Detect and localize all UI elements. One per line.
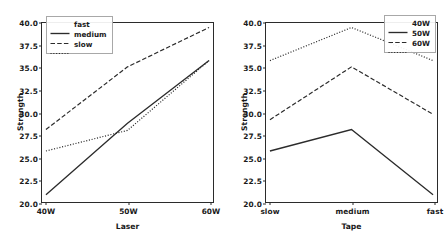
- legend-item-50w[interactable]: 50W: [388, 29, 430, 39]
- series-line-50w: [270, 67, 433, 120]
- y-tick-label: 22.5: [243, 177, 262, 186]
- y-tick-label: 32.5: [19, 86, 38, 95]
- y-tick-mark: [263, 23, 266, 24]
- y-tick-mark: [39, 181, 42, 182]
- x-tick-mark: [270, 202, 271, 205]
- x-tick-mark: [128, 202, 129, 205]
- y-tick-label: 40.0: [243, 19, 262, 28]
- y-tick-label: 32.5: [243, 86, 262, 95]
- x-tick-label: 60W: [202, 207, 221, 216]
- y-tick-label: 27.5: [243, 132, 262, 141]
- y-tick-label: 37.5: [243, 41, 262, 50]
- y-tick-mark: [263, 45, 266, 46]
- y-tick-label: 40.0: [19, 19, 38, 28]
- y-tick-mark: [39, 113, 42, 114]
- legend-label: 40W: [412, 20, 430, 27]
- y-tick-mark: [39, 23, 42, 24]
- y-tick-mark: [263, 90, 266, 91]
- legend-item-40w[interactable]: 40W: [388, 19, 430, 29]
- y-tick-mark: [39, 45, 42, 46]
- x-tick-mark: [46, 202, 47, 205]
- y-tick-mark: [39, 136, 42, 137]
- legend-item-medium[interactable]: medium: [50, 30, 107, 40]
- legend-right: 40W50W60W: [384, 15, 436, 53]
- x-axis-label-left: Laser: [41, 222, 214, 231]
- y-tick-mark: [263, 113, 266, 114]
- y-tick-label: 35.0: [243, 64, 262, 73]
- series-line-fast: [46, 61, 209, 195]
- y-tick-mark: [263, 181, 266, 182]
- y-tick-mark: [39, 158, 42, 159]
- y-tick-label: 25.0: [243, 154, 262, 163]
- legend-item-60w[interactable]: 60W: [388, 39, 430, 49]
- legend-item-slow[interactable]: slow: [50, 40, 107, 50]
- legend-swatch-dashed-icon: [388, 31, 408, 38]
- legend-swatch-dashed-icon: [50, 32, 70, 39]
- legend-label: 60W: [412, 40, 430, 47]
- y-tick-mark: [263, 136, 266, 137]
- y-tick-label: 37.5: [19, 41, 38, 50]
- legend-left: fastmediumslow: [46, 16, 113, 54]
- x-tick-mark: [211, 202, 212, 205]
- chart-panel-tape: Strength 20.022.525.027.530.032.535.037.…: [224, 0, 448, 242]
- y-tick-mark: [263, 204, 266, 205]
- y-tick-label: 35.0: [19, 64, 38, 73]
- y-tick-label: 30.0: [243, 109, 262, 118]
- y-tick-mark: [39, 68, 42, 69]
- y-tick-label: 25.0: [19, 154, 38, 163]
- y-tick-label: 20.0: [19, 200, 38, 209]
- chart-panel-laser: Strength 20.022.525.027.530.032.535.037.…: [0, 0, 224, 242]
- y-tick-label: 30.0: [19, 109, 38, 118]
- legend-item-fast[interactable]: fast: [50, 20, 107, 30]
- y-tick-mark: [39, 204, 42, 205]
- legend-swatch-solid-icon: [50, 22, 70, 29]
- x-tick-label: slow: [260, 207, 279, 216]
- y-tick-label: 22.5: [19, 177, 38, 186]
- legend-swatch-dotted-icon: [50, 42, 70, 49]
- y-tick-mark: [39, 90, 42, 91]
- x-tick-mark: [435, 202, 436, 205]
- y-tick-mark: [263, 158, 266, 159]
- x-tick-mark: [352, 202, 353, 205]
- legend-swatch-solid-icon: [388, 21, 408, 28]
- y-tick-mark: [263, 68, 266, 69]
- legend-label: fast: [74, 21, 90, 28]
- x-axis-label-right: Tape: [265, 222, 438, 231]
- x-tick-label: 40W: [37, 207, 56, 216]
- legend-label: 50W: [412, 30, 430, 37]
- y-tick-label: 20.0: [243, 200, 262, 209]
- legend-swatch-dotted-icon: [388, 41, 408, 48]
- x-tick-label: 50W: [119, 207, 138, 216]
- series-line-slow: [46, 61, 209, 151]
- series-line-40w: [270, 130, 433, 195]
- legend-label: medium: [74, 31, 107, 38]
- legend-label: slow: [74, 41, 92, 48]
- x-tick-label: fast: [427, 207, 444, 216]
- x-tick-label: medium: [335, 207, 369, 216]
- figure-canvas: Strength 20.022.525.027.530.032.535.037.…: [0, 0, 448, 242]
- y-tick-label: 27.5: [19, 132, 38, 141]
